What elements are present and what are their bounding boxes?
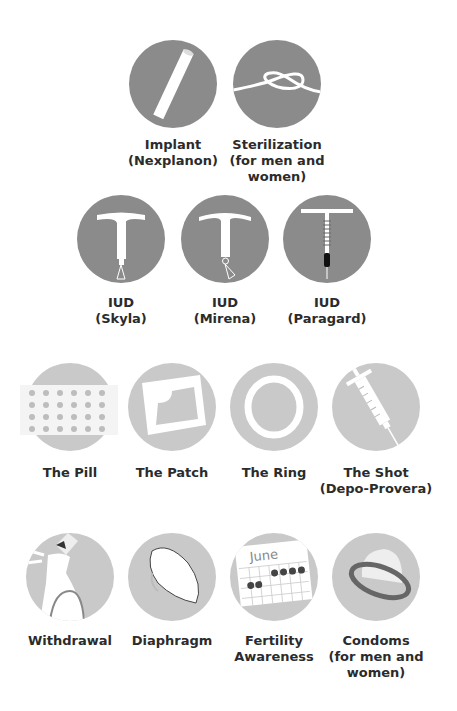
implant-rod-icon	[129, 40, 217, 128]
method-label: The Shot(Depo-Provera)	[311, 465, 441, 497]
iud-hormonal-icon	[181, 195, 269, 283]
diaphragm-icon	[128, 533, 216, 621]
method-label: IUD(Paragard)	[262, 295, 392, 327]
patch-icon	[128, 363, 216, 451]
method-label: Sterilization(for men andwomen)	[212, 137, 342, 185]
pill-pack-icon	[26, 363, 114, 451]
calendar-icon: June	[230, 533, 318, 621]
method-label: Condoms(for men andwomen)	[311, 633, 441, 681]
ring-icon	[230, 363, 318, 451]
calendar-month-text: June	[248, 547, 279, 565]
withdrawal-icon	[26, 533, 114, 621]
iud-hormonal-icon	[77, 195, 165, 283]
syringe-icon	[332, 363, 420, 451]
knot-icon	[233, 40, 321, 128]
condom-icon	[332, 533, 420, 621]
iud-copper-icon	[283, 195, 371, 283]
